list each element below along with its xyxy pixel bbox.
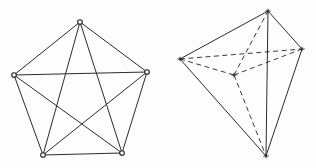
vertex-B-right xyxy=(145,70,150,75)
geometry-figure-canvas xyxy=(0,0,316,168)
vertex-D-bottom-left xyxy=(41,153,46,158)
canvas-background xyxy=(0,0,316,168)
vertex-E-left xyxy=(12,73,17,78)
vertex-A-top xyxy=(78,20,83,25)
vertex-C-bottom-right xyxy=(120,151,125,156)
